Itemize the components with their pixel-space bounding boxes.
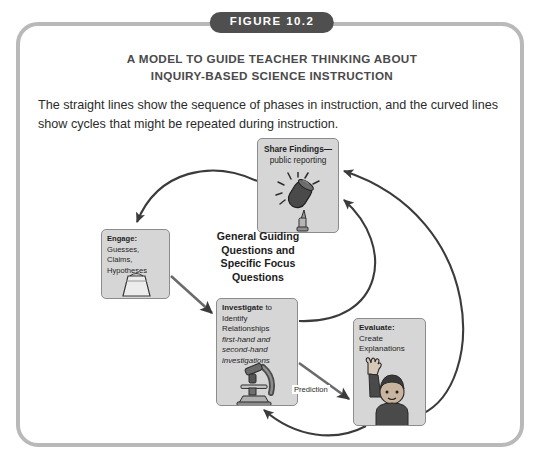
node-investigate: Investigate to Identify Relationships fi… [216, 298, 298, 406]
edge-label-prediction: Prediction [292, 385, 330, 394]
node-share-findings: Share Findings— public reporting [257, 138, 339, 233]
node-investigate-title-row: Investigate to [222, 303, 292, 314]
node-investigate-line-2: Relationships [222, 324, 292, 335]
node-evaluate-title: Evaluate: [359, 323, 420, 334]
bell-jar-icon [102, 268, 170, 298]
person-raising-hand-icon [354, 357, 426, 426]
center-label-line-4: Questions [178, 271, 338, 285]
curve-evaluate-to-investigate-prediction [264, 410, 366, 435]
figure-title: A MODEL TO GUIDE TEACHER THINKING ABOUT … [0, 50, 544, 84]
node-investigate-text: Investigate to Identify Relationships fi… [217, 299, 297, 366]
node-engage: Engage: Guesses, Claims, Hypotheses [101, 229, 170, 299]
node-investigate-title: Investigate [222, 303, 263, 312]
node-evaluate-line-2: Explanations [359, 344, 420, 355]
node-investigate-italic-2: second-hand [222, 345, 292, 356]
microscope-icon [217, 363, 298, 406]
node-evaluate-text: Evaluate: Create Explanations [354, 319, 425, 355]
center-label-line-2: Questions and [178, 244, 338, 258]
node-share-findings-text: Share Findings— public reporting [258, 139, 338, 165]
model-diagram: General Guiding Questions and Specific F… [16, 126, 524, 441]
center-label-line-3: Specific Focus [178, 257, 338, 271]
figure-number-badge: FIGURE 10.2 [210, 12, 334, 33]
node-investigate-line-1: Identify [222, 314, 292, 325]
figure-title-line-2: INQUIRY-BASED SCIENCE INSTRUCTION [0, 67, 544, 84]
node-share-findings-title: Share Findings— [263, 144, 333, 155]
node-engage-title: Engage: [107, 234, 164, 245]
figure-container: FIGURE 10.2 A MODEL TO GUIDE TEACHER THI… [0, 0, 544, 467]
node-investigate-title-tail: to [263, 303, 272, 312]
curve-share-to-engage [137, 171, 257, 222]
center-guiding-questions-label: General Guiding Questions and Specific F… [178, 230, 338, 284]
node-investigate-italic-1: first-hand and [222, 335, 292, 346]
microphone-icon [258, 172, 339, 233]
node-share-findings-subtitle: public reporting [263, 155, 333, 166]
node-evaluate: Evaluate: Create Explanations [353, 318, 426, 426]
node-engage-line-1: Guesses, Claims, [107, 245, 164, 266]
center-label-line-1: General Guiding [178, 230, 338, 244]
node-evaluate-line-1: Create [359, 334, 420, 345]
figure-caption: The straight lines show the sequence of … [38, 96, 508, 133]
figure-title-line-1: A MODEL TO GUIDE TEACHER THINKING ABOUT [0, 50, 544, 67]
